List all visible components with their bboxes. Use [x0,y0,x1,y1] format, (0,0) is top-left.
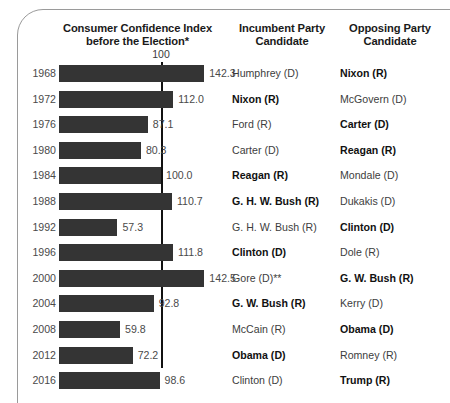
row-year: 1984 [28,169,56,181]
table-row: 200859.8McCain (R)Obama (D) [0,318,450,344]
incumbent-header-line1: Incumbent Party [228,22,336,35]
incumbent-candidate: Clinton (D) [232,246,286,258]
incumbent-candidate: Carter (D) [232,144,279,156]
bar-value-label: 111.8 [178,246,203,258]
opposing-candidate: Reagan (R) [340,144,396,156]
row-year: 1988 [28,195,56,207]
row-year: 1992 [28,221,56,233]
opposing-candidate: Romney (R) [340,349,397,361]
bar-value-label: 92.8 [159,297,180,309]
bar-value-label: 110.7 [177,195,203,207]
opposing-candidate: Obama (D) [340,323,394,335]
table-row: 198080.3Carter (D)Reagan (R) [0,139,450,165]
bar [59,167,161,184]
table-row: 197687.1Ford (R)Carter (D) [0,113,450,139]
incumbent-candidate: McCain (R) [232,323,286,335]
opposing-column-header: Opposing Party Candidate [336,22,444,49]
incumbent-candidate: Reagan (R) [232,169,288,181]
bar [59,193,172,210]
table-row: 201698.6Clinton (D)Trump (R) [0,369,450,395]
opposing-candidate: G. W. Bush (R) [340,272,414,284]
bar-value-label: 100.0 [166,169,193,181]
bar-value-label: 72.2 [138,349,159,361]
row-year: 1968 [28,67,56,79]
incumbent-candidate: G. H. W. Bush (R) [232,195,319,207]
table-row: 199257.3G. H. W. Bush (R)Clinton (D) [0,216,450,242]
election-confidence-chart: Consumer Confidence Index before the Ele… [0,0,450,403]
bar [59,116,148,133]
table-row: 1968142.3Humphrey (D)Nixon (R) [0,62,450,88]
opposing-candidate: Dole (R) [340,246,379,258]
row-year: 1996 [28,246,56,258]
row-year: 1972 [28,93,56,105]
bar [59,321,120,338]
bar [59,244,173,261]
opposing-candidate: McGovern (D) [340,93,407,105]
row-year: 2000 [28,272,56,284]
opposing-candidate: Clinton (D) [340,221,394,233]
row-year: 2004 [28,297,56,309]
bar [59,91,173,108]
opposing-candidate: Nixon (R) [340,67,387,79]
chart-column-header: Consumer Confidence Index before the Ele… [50,22,225,49]
reference-line-label: 100 [141,48,181,60]
bar [59,347,133,364]
incumbent-candidate: Clinton (D) [232,374,283,386]
chart-header-line1: Consumer Confidence Index [50,22,225,35]
incumbent-candidate: G. W. Bush (R) [232,297,306,309]
opposing-candidate: Carter (D) [340,118,389,130]
incumbent-candidate: Nixon (R) [232,93,279,105]
chart-header-line2: before the Election* [50,35,225,48]
incumbent-candidate: Gore (D)** [232,272,281,284]
table-row: 2000142.5Gore (D)**G. W. Bush (R) [0,267,450,293]
bar [59,270,204,287]
incumbent-candidate: Obama (D) [232,349,286,361]
table-row: 1972112.0Nixon (R)McGovern (D) [0,88,450,114]
bar [59,372,160,389]
opposing-header-line1: Opposing Party [336,22,444,35]
row-year: 1980 [28,144,56,156]
bar [59,142,141,159]
opposing-candidate: Trump (R) [340,374,390,386]
table-row: 1984100.0Reagan (R)Mondale (D) [0,164,450,190]
incumbent-column-header: Incumbent Party Candidate [228,22,336,49]
row-year: 2012 [28,349,56,361]
opposing-candidate: Mondale (D) [340,169,398,181]
bar-value-label: 98.6 [165,374,186,386]
table-row: 200492.8G. W. Bush (R)Kerry (D) [0,292,450,318]
row-year: 2008 [28,323,56,335]
table-row: 1996111.8Clinton (D)Dole (R) [0,241,450,267]
bar [59,65,204,82]
row-year: 1976 [28,118,56,130]
bar-value-label: 59.8 [125,323,146,335]
opposing-header-line2: Candidate [336,35,444,48]
bar-value-label: 57.3 [122,221,143,233]
bar-value-label: 87.1 [153,118,174,130]
row-year: 2016 [28,374,56,386]
incumbent-candidate: G. H. W. Bush (R) [232,221,317,233]
bar [59,295,154,312]
incumbent-header-line2: Candidate [228,35,336,48]
incumbent-candidate: Humphrey (D) [232,67,299,79]
table-row: 201272.2Obama (D)Romney (R) [0,344,450,370]
table-row: 1988110.7G. H. W. Bush (R)Dukakis (D) [0,190,450,216]
bar-value-label: 80.3 [146,144,167,156]
bar [59,219,117,236]
incumbent-candidate: Ford (R) [232,118,271,130]
opposing-candidate: Kerry (D) [340,297,383,309]
bar-value-label: 112.0 [178,93,204,105]
opposing-candidate: Dukakis (D) [340,195,395,207]
